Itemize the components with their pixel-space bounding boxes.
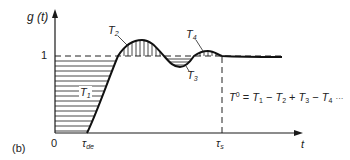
t3-name: T <box>187 69 194 81</box>
eq-sub: 2 <box>282 97 286 104</box>
tau-de-sub: de <box>86 143 94 150</box>
y-tick-one: 1 <box>41 49 47 61</box>
t4-leader <box>196 40 203 51</box>
area-label-t1: T1 <box>79 86 92 99</box>
t4-name: T <box>186 28 193 40</box>
eq-sub: 3 <box>305 97 309 104</box>
x-axis-arrow-icon <box>294 130 303 136</box>
eq-op: − <box>266 91 272 103</box>
tau-s-sub: s <box>220 143 224 150</box>
x-axis-label: t <box>301 138 304 150</box>
t2-leader <box>118 36 128 46</box>
eq-op: + <box>289 91 295 103</box>
origin-label: 0 <box>51 137 57 149</box>
eq-lhs-sup: 0 <box>236 91 240 98</box>
y-axis-arrow-icon <box>52 9 58 18</box>
response-curve <box>87 40 282 133</box>
t4-sub: 4 <box>193 34 197 41</box>
eq-lhs: T <box>229 91 236 103</box>
t1-sub: 1 <box>87 92 91 99</box>
y-axis-label: g (t) <box>27 10 48 24</box>
area-t3-hatching <box>160 59 200 65</box>
eq-op: − <box>312 91 318 103</box>
tau-s-label: τs <box>216 137 224 150</box>
t2-name: T <box>108 24 115 36</box>
eq-ellipsis: ··· <box>336 94 344 103</box>
t1-name: T <box>80 86 87 98</box>
eq-sub: 1 <box>259 97 263 104</box>
area-label-t3: T3 <box>187 69 198 82</box>
eq-term: T <box>322 91 329 103</box>
eq-sub: 4 <box>329 97 333 104</box>
eq-op: = <box>243 91 249 103</box>
t3-sub: 3 <box>194 75 198 82</box>
step-response-diagram <box>0 0 350 160</box>
area-label-t2: T2 <box>108 24 119 37</box>
area-label-t4: T4 <box>186 28 197 41</box>
equation: T0 = T1 − T2 + T3 − T4 ··· <box>229 91 344 104</box>
t2-sub: 2 <box>115 30 119 37</box>
eq-term: T <box>252 91 259 103</box>
panel-label: (b) <box>12 142 25 154</box>
tau-de-label: τde <box>82 137 94 150</box>
